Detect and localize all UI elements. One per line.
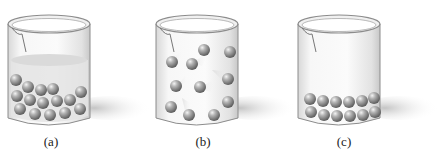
beaker-liquid-illustration (0, 0, 150, 135)
beaker-panel-c: (c) (292, 0, 438, 159)
beaker-solid-illustration (292, 0, 438, 135)
beaker-gas-illustration (146, 0, 296, 135)
panel-label-c: (c) (324, 134, 364, 150)
panel-label-b: (b) (183, 134, 223, 150)
beaker-panel-a: (a) (0, 0, 146, 159)
panel-label-a: (a) (31, 134, 71, 150)
beaker-panel-b: (b) (146, 0, 292, 159)
